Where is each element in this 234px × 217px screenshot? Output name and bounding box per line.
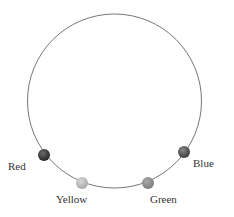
bead-yellow <box>76 177 88 189</box>
circle-diagram <box>0 0 234 217</box>
label-yellow: Yellow <box>56 193 87 205</box>
label-blue: Blue <box>193 157 214 169</box>
ring <box>28 14 202 188</box>
bead-blue <box>178 146 190 158</box>
label-red: Red <box>8 160 26 172</box>
bead-green <box>142 177 154 189</box>
label-green: Green <box>150 193 177 205</box>
bead-red <box>38 149 50 161</box>
